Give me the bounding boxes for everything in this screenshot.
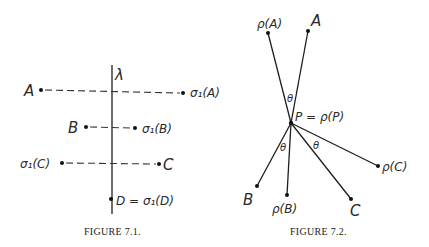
label-p-equals-rho-p: P = ρ(P) [295, 110, 344, 124]
figure-7-2: ρ(A) A P = ρ(P) B ρ(B) C ρ(C) θ θ θ FIGU… [243, 12, 407, 237]
caption-figure-7-2: FIGURE 7.2. [290, 226, 347, 237]
figures-canvas: λ A σ₁(A) B σ₁(B) σ₁(C) C D = σ₁(D) FIGU… [0, 0, 429, 247]
angle-theta-bottom-right: θ [313, 140, 319, 151]
point-rho-b [285, 193, 289, 197]
label-b: B [68, 119, 78, 137]
point-a2 [306, 29, 310, 33]
figure-7-1: λ A σ₁(A) B σ₁(B) σ₁(C) C D = σ₁(D) FIGU… [20, 65, 220, 237]
label-rho-a: ρ(A) [257, 17, 282, 31]
label-a: A [23, 82, 34, 100]
label-c2: C [350, 202, 361, 220]
point-sigma-a [181, 91, 185, 95]
segment-p-rho-a [268, 33, 291, 123]
point-sigma-b [133, 126, 137, 130]
point-rho-c [376, 164, 380, 168]
point-c2 [349, 197, 353, 201]
label-sigma-a: σ₁(A) [190, 86, 220, 100]
point-b2 [255, 184, 259, 188]
label-c: C [163, 156, 174, 174]
point-c [157, 162, 161, 166]
dashed-segment-c [66, 163, 156, 164]
lambda-label: λ [114, 66, 124, 84]
segment-p-b [257, 123, 291, 186]
angle-theta-bottom-left: θ [280, 142, 286, 153]
label-b2: B [243, 191, 253, 209]
segment-p-rho-b [287, 123, 291, 195]
point-b [84, 125, 88, 129]
label-rho-b: ρ(B) [272, 202, 297, 216]
point-rho-a [266, 31, 270, 35]
segment-p-rho-c [291, 123, 378, 166]
point-a [39, 88, 43, 92]
label-rho-c: ρ(C) [382, 160, 407, 174]
point-p [289, 121, 293, 125]
point-d [109, 197, 113, 201]
dashed-segment-b [90, 127, 132, 128]
point-sigma-c [60, 161, 64, 165]
label-d-equals-sigma-d: D = σ₁(D) [116, 194, 174, 208]
caption-figure-7-1: FIGURE 7.1. [84, 226, 141, 237]
label-sigma-c: σ₁(C) [20, 157, 50, 171]
angle-theta-top: θ [287, 93, 293, 104]
label-sigma-b: σ₁(B) [142, 122, 172, 136]
segment-p-c [291, 123, 351, 199]
label-a2: A [310, 12, 321, 30]
